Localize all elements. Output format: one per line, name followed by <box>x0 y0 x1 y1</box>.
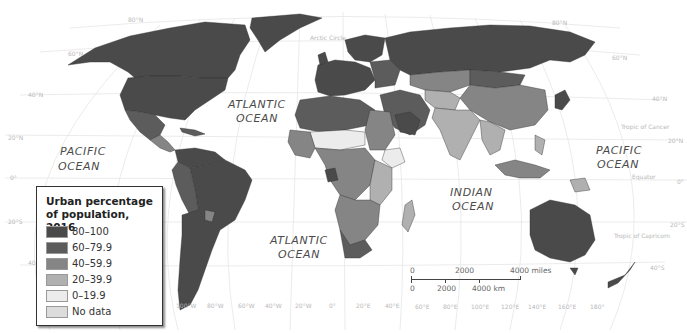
legend-item-0-19: 0–19.9 <box>46 289 106 302</box>
philippines <box>535 135 545 155</box>
indonesia <box>495 160 550 178</box>
legend-item-20-39: 20–39.9 <box>46 273 112 286</box>
central-africa <box>315 148 375 200</box>
lon-label: 60°W <box>238 302 255 309</box>
scale-tick <box>411 276 412 283</box>
equator-label: Equator <box>632 173 656 181</box>
lat-label: 20°S <box>8 218 23 225</box>
egypt-sudan <box>365 110 395 150</box>
scale-tick <box>520 276 521 280</box>
lat-label: 40°N <box>652 95 667 102</box>
lat-label: 20°S <box>670 221 685 228</box>
scale-km-2000: 2000 <box>437 284 456 293</box>
western-europe <box>315 60 375 96</box>
legend-item-40-59: 40–59.9 <box>46 257 112 270</box>
legend-item-no-data: No data <box>46 305 111 318</box>
scandinavia <box>345 35 385 62</box>
indian-ocean-label: INDIAN <box>450 186 493 199</box>
pacific-ocean-east-label-2: OCEAN <box>597 158 639 171</box>
indian-ocean-label-2: OCEAN <box>452 200 494 213</box>
lon-label: 180° <box>590 303 604 310</box>
canada-alaska <box>68 22 250 78</box>
legend-swatch <box>46 306 68 318</box>
lon-label: 120°E <box>501 303 519 310</box>
lon-label: 80°E <box>443 303 458 310</box>
legend-label: 20–39.9 <box>72 274 112 285</box>
legend-swatch <box>46 258 68 270</box>
pacific-ocean-east-label: PACIFIC <box>596 144 642 157</box>
scale-km-0: 0 <box>410 284 415 293</box>
legend-label: 0–19.9 <box>72 290 106 301</box>
tropic-of-capricorn-label: Tropic of Capricorn <box>613 232 670 240</box>
scale-bar: 0 2000 4000 miles 0 2000 4000 km <box>407 262 527 302</box>
legend-swatch <box>46 290 68 302</box>
arctic-circle-label: Arctic Circle <box>310 34 346 41</box>
sahel <box>310 130 365 150</box>
lon-label: 40°E <box>385 302 400 309</box>
scale-miles-2000: 2000 <box>455 266 474 275</box>
scale-km-4000: 4000 km <box>472 284 505 293</box>
lon-label: 80°W <box>207 302 224 309</box>
lat-label: 0° <box>10 174 17 181</box>
madagascar <box>402 200 415 232</box>
north-africa <box>295 96 375 132</box>
lat-label: 60°N <box>612 54 627 61</box>
scale-miles-0: 0 <box>410 266 415 275</box>
map-legend: Urban percentage of population, 2016 80–… <box>36 186 163 326</box>
lon-label: 100°E <box>471 303 489 310</box>
south-america <box>172 148 252 310</box>
lon-label: 60°E <box>415 303 430 310</box>
lat-label: 80°N <box>128 16 143 23</box>
lat-label: 80°N <box>552 19 567 26</box>
india <box>432 108 480 160</box>
lat-label: 20°N <box>668 137 683 144</box>
asia <box>380 25 595 178</box>
caribbean <box>180 128 205 136</box>
lon-label: 160°E <box>558 303 576 310</box>
pacific-ocean-west-label-2: OCEAN <box>58 160 100 173</box>
japan-korea <box>555 90 570 110</box>
lon-label: 20°E <box>356 302 371 309</box>
legend-swatch <box>46 242 68 254</box>
lat-label: 40°N <box>28 91 43 98</box>
scale-tick <box>479 279 480 283</box>
lat-label: 40°S <box>650 264 665 271</box>
lon-label: 40°W <box>265 302 282 309</box>
australia <box>530 200 595 262</box>
lat-label: 0° <box>677 178 684 185</box>
legend-item-80-100: 80–100 <box>46 225 109 238</box>
atlantic-ocean-south-label: ATLANTIC <box>269 234 328 247</box>
atlantic-ocean-south-label-2: OCEAN <box>278 248 320 261</box>
lon-label: 140°E <box>528 303 546 310</box>
new-zealand <box>608 262 635 288</box>
north-america <box>68 14 322 152</box>
lon-label: 20°W <box>295 302 312 309</box>
atlantic-ocean-north-label-2: OCEAN <box>236 112 278 125</box>
legend-swatch <box>46 274 68 286</box>
lon-label: 100°W <box>176 302 196 309</box>
tropic-of-cancer-label: Tropic of Cancer <box>620 123 670 131</box>
central-asia <box>425 90 460 110</box>
greenland <box>250 14 322 52</box>
russia <box>385 25 595 75</box>
scale-line <box>411 279 520 280</box>
atlantic-ocean-north-label: ATLANTIC <box>227 98 286 111</box>
legend-title-line1: Urban percentage <box>46 195 162 208</box>
scale-miles-4000: 4000 miles <box>510 266 551 275</box>
lon-label: 0° <box>329 302 336 309</box>
lat-label: 20°N <box>8 134 23 141</box>
legend-label: 40–59.9 <box>72 258 112 269</box>
legend-swatch <box>46 226 68 238</box>
pacific-ocean-west-label: PACIFIC <box>60 145 106 158</box>
legend-label: No data <box>72 306 111 317</box>
legend-label: 80–100 <box>72 226 109 237</box>
legend-item-60-79: 60–79.9 <box>46 241 112 254</box>
lat-label: 60°N <box>68 50 83 57</box>
scale-tick <box>445 279 446 283</box>
legend-label: 60–79.9 <box>72 242 112 253</box>
